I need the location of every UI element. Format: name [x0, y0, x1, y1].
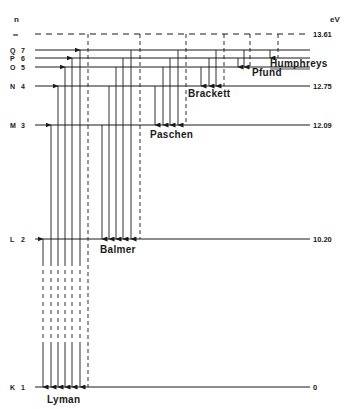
energy-value-label: 13.61	[313, 30, 332, 39]
energy-value-label: 10.20	[313, 235, 332, 244]
quantum-number-label: 6	[21, 55, 25, 62]
n-axis-title: n	[14, 15, 19, 24]
series-label-balmer: Balmer	[100, 244, 136, 255]
shell-label: M	[10, 122, 16, 129]
quantum-number-label: 3	[21, 122, 25, 129]
series-label-brackett: Brackett	[188, 88, 231, 99]
shell-label: O	[10, 64, 16, 71]
shell-label: N	[10, 83, 15, 90]
quantum-number-label: 7	[21, 47, 25, 54]
ev-axis-title: eV	[330, 15, 340, 24]
series-label-humphreys: Humphreys	[270, 58, 328, 69]
series-label-paschen: Paschen	[150, 129, 193, 140]
quantum-number-label: 4	[21, 83, 25, 90]
hydrogen-energy-level-diagram: n eV ∞13.61Q7P6O5N412.75M312.09L210.20K1…	[0, 0, 356, 409]
energy-value-label: 12.09	[313, 121, 332, 130]
series-labels: LymanBalmerPaschenBrackettPfundHumphreys	[47, 58, 328, 405]
series-label-lyman: Lyman	[47, 394, 80, 405]
energy-value-label: 12.75	[313, 82, 332, 91]
shell-label: K	[10, 384, 15, 391]
shell-label: P	[10, 55, 15, 62]
quantum-number-label: ∞	[13, 31, 18, 38]
quantum-number-label: 5	[21, 64, 25, 71]
transitions	[43, 34, 278, 387]
shell-label: L	[10, 236, 15, 243]
quantum-number-label: 1	[21, 384, 25, 391]
energy-value-label: 0	[313, 383, 317, 392]
shell-label: Q	[10, 47, 16, 55]
quantum-number-label: 2	[21, 236, 25, 243]
